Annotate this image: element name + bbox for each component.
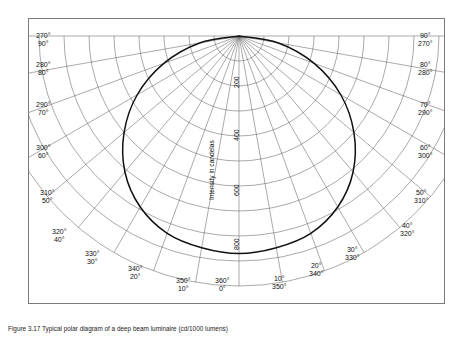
- radial-tick-400: 400: [233, 129, 240, 141]
- polar-chart-svg: [0, 0, 473, 342]
- angle-label-left-0: 270°90°: [36, 32, 50, 47]
- angle-label-right-8: 10°350°: [272, 275, 286, 290]
- radial-axis-title: Intensity in candelas: [208, 140, 215, 200]
- angle-label-left-2: 290°70°: [36, 101, 50, 116]
- angle-label-right-1: 80°280°: [418, 61, 432, 76]
- figure-caption: Figure 3.17 Typical polar diagram of a d…: [8, 325, 228, 332]
- angle-label-left-5: 320°40°: [52, 228, 66, 243]
- angle-label-right-0: 90°270°: [418, 32, 432, 47]
- angle-label-left-3: 300°60°: [36, 144, 50, 159]
- angle-label-left-7: 340°20°: [128, 265, 142, 280]
- angle-label-right-6: 30°330°: [345, 246, 359, 261]
- angle-label-left-9: 360°0°: [215, 277, 229, 292]
- angle-label-left-1: 280°80°: [36, 61, 50, 76]
- angle-label-right-7: 20°340°: [309, 262, 323, 277]
- figure-container: 270°90° 280°80° 290°70° 300°60° 310°50° …: [0, 0, 473, 342]
- angle-label-right-4: 50°310°: [414, 189, 428, 204]
- angle-label-right-2: 70°290°: [418, 101, 432, 116]
- angle-label-right-5: 40°320°: [400, 222, 414, 237]
- angle-label-left-6: 330°30°: [85, 250, 99, 265]
- radial-tick-600: 600: [233, 184, 240, 196]
- radial-tick-200: 200: [233, 76, 240, 88]
- angle-label-left-4: 310°50°: [40, 189, 54, 204]
- radial-tick-800: 800: [233, 238, 240, 250]
- angle-label-right-3: 60°300°: [418, 144, 432, 159]
- angle-label-left-8: 350°10°: [176, 277, 190, 292]
